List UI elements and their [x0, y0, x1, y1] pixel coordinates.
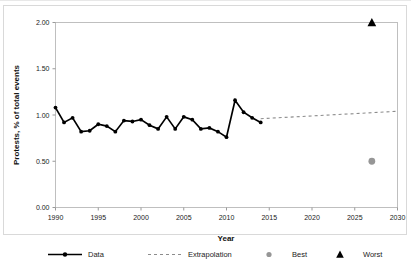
x-tick-label: 2025 [347, 214, 363, 221]
x-tick-label: 2010 [219, 214, 235, 221]
y-tick-label: 1.00 [36, 112, 50, 119]
y-tick-label: 2.00 [36, 19, 50, 26]
legend-label: Best [292, 250, 308, 259]
data-point [182, 115, 186, 119]
legend-triangle-icon [336, 251, 344, 258]
data-point [105, 124, 109, 128]
legend-item-worst[interactable]: Worst [336, 250, 383, 259]
series-best [368, 158, 375, 165]
x-tick-label: 2015 [261, 214, 277, 221]
chart-container: 0.000.501.001.502.00 1990199520002005201… [0, 0, 411, 264]
data-point [113, 130, 117, 134]
data-point [199, 127, 203, 131]
data-point [79, 130, 83, 134]
data-point [62, 121, 66, 125]
data-point [54, 106, 58, 110]
data-point [139, 118, 143, 122]
legend-item-extrapolation[interactable]: Extrapolation [148, 250, 232, 259]
data-point [96, 122, 100, 126]
legend-marker-icon [63, 252, 67, 256]
data-point [71, 116, 75, 120]
data-point [148, 123, 152, 127]
data-point [131, 120, 135, 124]
x-axis-tick-labels: 199019952000200520102015202020252030 [48, 214, 406, 221]
data-point [233, 98, 237, 102]
x-axis-title: Year [218, 234, 235, 243]
legend-item-best[interactable]: Best [266, 250, 308, 259]
legend-label: Extrapolation [188, 250, 232, 259]
legend-circle-icon [266, 252, 271, 257]
legend-label: Worst [363, 250, 383, 259]
chart-canvas: 0.000.501.001.502.00 1990199520002005201… [0, 0, 411, 264]
y-axis-tick-labels: 0.000.501.001.502.00 [36, 19, 50, 211]
plot-area [56, 23, 398, 208]
data-point [173, 127, 177, 131]
data-point [88, 129, 92, 133]
x-tick-label: 2000 [133, 214, 149, 221]
x-tick-label: 1990 [48, 214, 64, 221]
data-point [225, 135, 229, 139]
data-point [190, 118, 194, 122]
legend-label: Data [88, 250, 105, 259]
y-tick-label: 0.50 [36, 158, 50, 165]
data-point [208, 126, 212, 130]
data-point [242, 110, 246, 114]
x-tick-label: 2020 [304, 214, 320, 221]
marker-best [368, 158, 375, 165]
data-point [250, 116, 254, 120]
legend-item-data[interactable]: Data [48, 250, 105, 259]
data-point [156, 127, 160, 131]
data-point [216, 130, 220, 134]
y-tick-label: 0.00 [36, 204, 50, 211]
y-tick-label: 1.50 [36, 65, 50, 72]
data-point [165, 115, 169, 119]
chart-legend: DataExtrapolationBestWorst [48, 250, 383, 259]
y-axis-title: Protests, % of total events [12, 64, 21, 165]
data-point [122, 119, 126, 123]
x-tick-label: 1995 [90, 214, 106, 221]
data-point [259, 121, 263, 125]
x-tick-label: 2005 [176, 214, 192, 221]
x-tick-label: 2030 [390, 214, 406, 221]
